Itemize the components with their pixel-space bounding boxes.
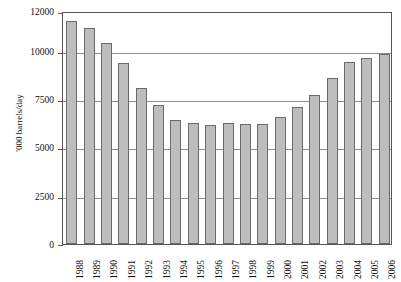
- x-tick-label-2003: 2003: [335, 245, 345, 279]
- x-tick-label-1997: 1997: [231, 245, 241, 279]
- x-tick-label-1994: 1994: [179, 245, 189, 279]
- bar-2006: [379, 54, 390, 244]
- plot-area: [62, 12, 392, 245]
- y-tick-label-10000: 10000: [30, 47, 54, 57]
- x-tick-label-2005: 2005: [370, 245, 380, 279]
- bar-1994: [170, 120, 181, 244]
- y-tick-label-7500: 7500: [35, 95, 54, 105]
- bar-1993: [153, 105, 164, 244]
- y-tick-label-12000: 12000: [30, 7, 54, 17]
- bar-2002: [309, 95, 320, 245]
- x-tick-label-1995: 1995: [196, 245, 206, 279]
- bar-chart: '000 barrels/day 0 2500 5000 7500 10000 …: [0, 0, 401, 282]
- x-tick-label-2004: 2004: [353, 245, 363, 279]
- x-tick-label-1996: 1996: [214, 245, 224, 279]
- bar-1988: [66, 21, 77, 244]
- bar-2003: [327, 78, 338, 244]
- bar-1999: [257, 124, 268, 244]
- bar-2000: [275, 117, 286, 244]
- bar-1995: [188, 123, 199, 244]
- bar-1998: [240, 124, 251, 244]
- x-tick-label-1988: 1988: [75, 245, 85, 279]
- y-tick-label-2500: 2500: [35, 192, 54, 202]
- x-tick-label-1992: 1992: [144, 245, 154, 279]
- x-tick-label-1990: 1990: [109, 245, 119, 279]
- x-tick-label-1998: 1998: [248, 245, 258, 279]
- x-tick-label-2006: 2006: [387, 245, 397, 279]
- y-tick-0: [58, 245, 63, 246]
- y-axis-tick-labels: 0 2500 5000 7500 10000 12000: [0, 0, 62, 282]
- bar-1997: [223, 123, 234, 244]
- x-tick-label-1999: 1999: [266, 245, 276, 279]
- y-tick-label-0: 0: [49, 240, 54, 250]
- bar-1989: [84, 28, 95, 244]
- bar-2005: [361, 58, 372, 244]
- x-tick-label-1993: 1993: [162, 245, 172, 279]
- bar-1991: [118, 63, 129, 244]
- x-tick-label-2001: 2001: [300, 245, 310, 279]
- y-tick-label-5000: 5000: [35, 143, 54, 153]
- x-tick-label-1989: 1989: [92, 245, 102, 279]
- bar-1990: [101, 43, 112, 244]
- x-tick-label-2002: 2002: [318, 245, 328, 279]
- bar-2001: [292, 107, 303, 244]
- bar-1996: [205, 125, 216, 244]
- x-tick-label-1991: 1991: [127, 245, 137, 279]
- x-tick-label-2000: 2000: [283, 245, 293, 279]
- bar-2004: [344, 62, 355, 244]
- x-axis-tick-labels: 1988198919901991199219931994199519961997…: [62, 247, 392, 282]
- bar-1992: [136, 88, 147, 244]
- bar-series: [63, 13, 391, 244]
